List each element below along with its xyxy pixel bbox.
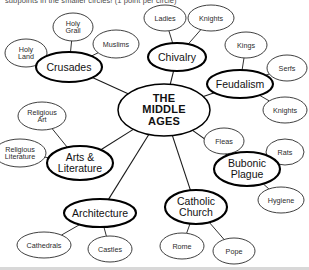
node-ellipse-cathedrals[interactable]: [17, 232, 71, 258]
node-ellipse-bubonic-plague[interactable]: [214, 152, 280, 186]
node-ellipse-fleas[interactable]: [204, 128, 244, 154]
node-ellipse-castles[interactable]: [88, 236, 132, 262]
connector-feudalism-to-knights-feudal: [260, 95, 270, 101]
node-ellipse-architecture[interactable]: [64, 199, 136, 227]
node-ellipse-crusades[interactable]: [36, 52, 102, 82]
concept-map-canvas: [0, 0, 309, 270]
node-ellipse-muslims[interactable]: [93, 30, 139, 58]
node-ellipse-catholic-church[interactable]: [165, 190, 227, 224]
connector-chivalry-to-knights-chivalry: [188, 30, 201, 44]
node-ellipse-middle-ages[interactable]: [118, 84, 210, 136]
node-ellipse-hygiene[interactable]: [258, 187, 304, 213]
node-ellipse-serfs[interactable]: [267, 55, 307, 81]
connector-middle-ages-to-arts-literature: [101, 129, 133, 149]
node-ellipse-kings[interactable]: [225, 32, 267, 58]
connector-middle-ages-to-chivalry: [170, 71, 173, 84]
node-ellipse-rome[interactable]: [160, 233, 204, 259]
node-ellipse-feudalism[interactable]: [207, 70, 273, 98]
node-ellipse-arts-literature[interactable]: [47, 146, 113, 180]
connector-catholic-church-to-pope: [209, 222, 224, 239]
node-ellipse-religious-literature[interactable]: [0, 139, 46, 167]
connector-middle-ages-to-catholic-church: [172, 136, 190, 191]
connector-middle-ages-to-feudalism: [203, 93, 214, 97]
connector-architecture-to-cathedrals: [61, 225, 79, 236]
node-ellipse-knights-feudal[interactable]: [263, 97, 307, 123]
nodes-layer: [0, 5, 307, 264]
connector-chivalry-to-ladies: [169, 31, 173, 43]
connector-middle-ages-to-crusades: [92, 78, 128, 94]
connector-arts-literature-to-religious-art: [52, 129, 67, 148]
node-ellipse-holy-grail[interactable]: [53, 13, 93, 41]
connector-middle-ages-to-architecture: [109, 135, 149, 200]
connector-crusades-to-holy-grail: [71, 41, 72, 52]
connector-catholic-church-to-rome: [187, 224, 190, 234]
node-ellipse-religious-art[interactable]: [18, 102, 66, 130]
node-ellipse-knights-chivalry[interactable]: [188, 5, 234, 31]
connector-architecture-to-castles: [104, 227, 107, 236]
node-ellipse-ladies[interactable]: [144, 5, 186, 31]
node-ellipse-chivalry[interactable]: [148, 43, 206, 71]
node-ellipse-pope[interactable]: [213, 238, 255, 264]
connector-feudalism-to-kings: [242, 58, 244, 70]
